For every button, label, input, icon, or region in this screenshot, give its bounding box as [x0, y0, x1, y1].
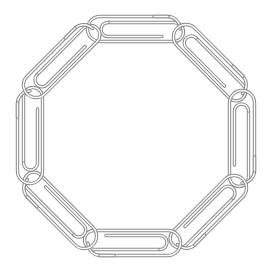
paperclip-left [18, 88, 43, 184]
paperclip-ring-svg [0, 0, 273, 265]
paperclip-bottom-left [16, 168, 102, 254]
paperclip-right [230, 91, 255, 187]
paperclip-top [88, 17, 184, 42]
paperclip-ring-illustration [0, 0, 273, 265]
paperclip-bottom [85, 231, 181, 256]
